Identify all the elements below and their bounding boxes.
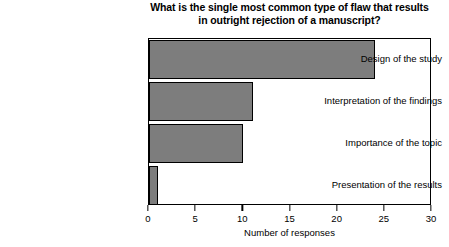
bar [149,82,253,121]
x-axis-tick-label: 30 [416,213,446,224]
category-label: Design of the study [303,53,449,64]
x-axis-tick [383,205,384,211]
x-axis: 051015202530 [148,205,431,206]
category-label: Importance of the topic [303,137,449,148]
x-axis-tick [242,205,243,211]
x-axis-tick [336,205,337,211]
x-axis-tick-label: 25 [369,213,399,224]
bar [149,124,243,163]
bar-chart: What is the single most common type of f… [0,0,449,247]
x-axis-tick [147,205,148,211]
chart-title-line-2: in outright rejection of a manuscript? [148,14,431,27]
x-axis-tick-label: 5 [180,213,210,224]
bar [149,166,158,205]
x-axis-tick [430,205,431,211]
x-axis-tick [289,205,290,211]
chart-title-line-1: What is the single most common type of f… [148,1,431,14]
x-axis-title: Number of responses [148,227,431,238]
x-axis-tick-label: 15 [275,213,305,224]
chart-title: What is the single most common type of f… [148,1,431,27]
category-label: Presentation of the results [303,179,449,190]
x-axis-tick-label: 0 [133,213,163,224]
x-axis-tick-label: 10 [227,213,257,224]
x-axis-tick-label: 20 [322,213,352,224]
category-label: Interpretation of the findings [303,95,449,106]
x-axis-tick [195,205,196,211]
